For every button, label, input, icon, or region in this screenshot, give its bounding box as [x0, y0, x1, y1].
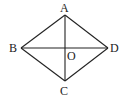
segment-ab [21, 15, 65, 48]
label-c: C [60, 84, 68, 98]
label-d: D [110, 41, 119, 55]
label-b: B [9, 41, 17, 55]
segments [21, 15, 108, 81]
segment-bc [21, 48, 65, 81]
label-a: A [60, 1, 69, 15]
segment-da [65, 15, 108, 48]
diagram-canvas: A B C D O [0, 0, 123, 103]
label-o: O [67, 49, 76, 63]
rhombus-diagram: A B C D O [0, 0, 123, 103]
